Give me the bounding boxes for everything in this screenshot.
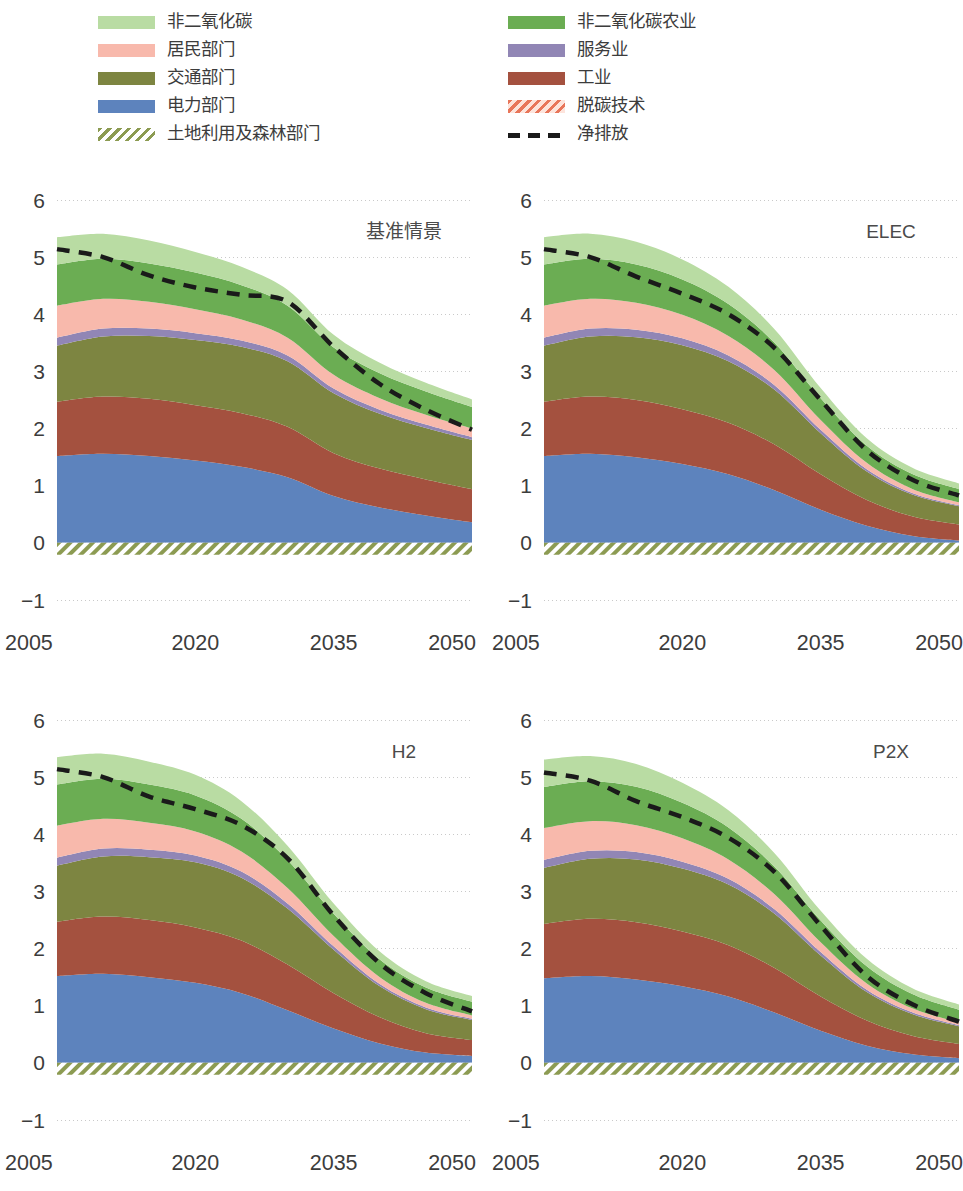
y-tick-label: 1: [520, 994, 532, 1017]
y-tick-label: 1: [33, 474, 45, 497]
y-tick-label: 3: [520, 880, 532, 903]
x-tick-label: 2050: [915, 631, 963, 655]
legend-item-power[interactable]: 电力部门: [98, 92, 320, 120]
y-tick-label: 3: [33, 360, 45, 383]
y-tick-label: 4: [520, 303, 532, 326]
legend-swatch-ccs: [508, 100, 565, 113]
legend-item-transport[interactable]: 交通部门: [98, 64, 320, 92]
legend-item-nonco2_agri[interactable]: 非二氧化碳农业: [508, 8, 696, 36]
legend-label-residential: 居民部门: [167, 41, 235, 59]
legend-swatch-services: [508, 44, 565, 57]
chart-panel-h2: 6543210−12005202020352050H2: [2, 698, 480, 1191]
legend-label-nonco2: 非二氧化碳: [167, 13, 252, 31]
area-landuse: [57, 1063, 472, 1075]
y-tick-label: −1: [21, 1109, 45, 1132]
x-tick-label: 2020: [171, 1151, 219, 1175]
legend-item-services[interactable]: 服务业: [508, 36, 696, 64]
panel-title: ELEC: [866, 221, 916, 242]
y-tick-label: 2: [33, 417, 45, 440]
legend-label-net: 净排放: [577, 125, 628, 143]
chart-panel-p2x: 6543210−12005202020352050P2X: [489, 698, 963, 1191]
stacked-areas: [544, 756, 959, 1063]
x-axis-ticks: 2005202020352050: [492, 1151, 963, 1175]
x-tick-label: 2035: [797, 631, 845, 655]
area-landuse: [544, 1063, 959, 1075]
y-tick-label: 0: [33, 1051, 45, 1074]
x-tick-label: 2020: [171, 631, 219, 655]
y-tick-label: 1: [520, 474, 532, 497]
panel-title: H2: [392, 741, 416, 762]
stacked-areas: [57, 754, 472, 1063]
stacked-areas: [544, 234, 959, 543]
y-tick-label: 2: [520, 937, 532, 960]
y-axis-ticks: 6543210−1: [21, 189, 45, 612]
x-tick-label: 2020: [658, 631, 706, 655]
x-axis-ticks: 2005202020352050: [5, 1151, 476, 1175]
y-axis-ticks: 6543210−1: [508, 709, 532, 1132]
x-tick-label: 2050: [915, 1151, 963, 1175]
legend-swatch-industry: [508, 72, 565, 85]
chart-panel-elec: 6543210−12005202020352050ELEC: [489, 178, 963, 678]
legend-label-landuse: 土地利用及森林部门: [167, 125, 320, 143]
legend-item-landuse[interactable]: 土地利用及森林部门: [98, 120, 320, 148]
y-tick-label: 4: [33, 303, 45, 326]
y-tick-label: 6: [520, 709, 532, 732]
legend-label-nonco2_agri: 非二氧化碳农业: [577, 13, 696, 31]
y-tick-label: 5: [33, 246, 45, 269]
x-axis-ticks: 2005202020352050: [492, 631, 963, 655]
y-tick-label: −1: [21, 589, 45, 612]
panel-title: 基准情景: [366, 221, 442, 242]
y-tick-label: −1: [508, 1109, 532, 1132]
legend-item-net[interactable]: 净排放: [508, 120, 696, 148]
legend-column-right: 非二氧化碳农业服务业工业脱碳技术净排放: [508, 8, 696, 148]
legend-swatch-net: [508, 128, 565, 141]
y-tick-label: 0: [33, 531, 45, 554]
y-tick-label: 3: [33, 880, 45, 903]
chart-panel-baseline: 6543210−12005202020352050基准情景: [2, 178, 480, 678]
legend-column-left: 非二氧化碳居民部门交通部门电力部门土地利用及森林部门: [98, 8, 320, 148]
chart-legend: 非二氧化碳居民部门交通部门电力部门土地利用及森林部门 非二氧化碳农业服务业工业脱…: [0, 0, 963, 176]
legend-swatch-power: [98, 100, 155, 113]
legend-swatch-nonco2: [98, 16, 155, 29]
y-tick-label: 2: [33, 937, 45, 960]
legend-item-ccs[interactable]: 脱碳技术: [508, 92, 696, 120]
y-tick-label: 6: [33, 189, 45, 212]
y-tick-label: 6: [520, 189, 532, 212]
area-landuse: [57, 543, 472, 555]
legend-swatch-residential: [98, 44, 155, 57]
stacked-areas: [57, 234, 472, 543]
y-tick-label: 2: [520, 417, 532, 440]
panel-title: P2X: [873, 741, 909, 762]
x-tick-label: 2035: [310, 631, 358, 655]
legend-swatch-landuse: [98, 128, 155, 141]
x-tick-label: 2005: [5, 631, 53, 655]
y-axis-ticks: 6543210−1: [508, 189, 532, 612]
y-tick-label: 0: [520, 531, 532, 554]
x-tick-label: 2005: [492, 631, 540, 655]
y-tick-label: −1: [508, 589, 532, 612]
area-landuse: [544, 543, 959, 555]
y-tick-label: 5: [520, 246, 532, 269]
x-tick-label: 2005: [5, 1151, 53, 1175]
legend-label-ccs: 脱碳技术: [577, 97, 645, 115]
y-tick-label: 5: [33, 766, 45, 789]
legend-label-power: 电力部门: [167, 97, 235, 115]
legend-swatch-nonco2_agri: [508, 16, 565, 29]
legend-label-industry: 工业: [577, 69, 611, 87]
legend-item-nonco2[interactable]: 非二氧化碳: [98, 8, 320, 36]
legend-item-residential[interactable]: 居民部门: [98, 36, 320, 64]
legend-label-services: 服务业: [577, 41, 628, 59]
legend-item-industry[interactable]: 工业: [508, 64, 696, 92]
legend-swatch-transport: [98, 72, 155, 85]
y-tick-label: 4: [520, 823, 532, 846]
y-tick-label: 4: [33, 823, 45, 846]
y-tick-label: 5: [520, 766, 532, 789]
x-tick-label: 2035: [797, 1151, 845, 1175]
x-tick-label: 2035: [310, 1151, 358, 1175]
y-tick-label: 6: [33, 709, 45, 732]
x-tick-label: 2050: [428, 1151, 476, 1175]
y-tick-label: 3: [520, 360, 532, 383]
y-tick-label: 0: [520, 1051, 532, 1074]
y-axis-ticks: 6543210−1: [21, 709, 45, 1132]
x-tick-label: 2050: [428, 631, 476, 655]
